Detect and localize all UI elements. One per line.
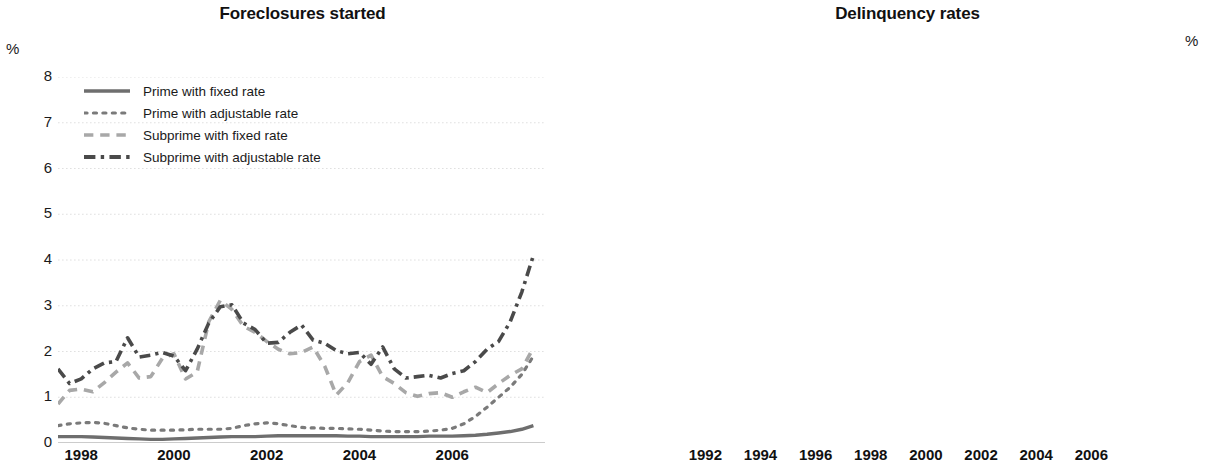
x-axis-tick-label-right: 2004 bbox=[1009, 446, 1063, 463]
legend-item[interactable]: Subprime with adjustable rate bbox=[84, 146, 321, 168]
x-axis-tick-label-left: 2000 bbox=[147, 446, 201, 463]
x-axis-tick-label-left: 2006 bbox=[425, 446, 479, 463]
x-axis-tick-label-right: 2006 bbox=[1064, 446, 1118, 463]
x-axis-tick-label-right: 1996 bbox=[789, 446, 843, 463]
x-axis-tick-label-right: 1994 bbox=[733, 446, 787, 463]
x-axis-tick-label-right: 2000 bbox=[899, 446, 953, 463]
y-axis-tick-label-left: 3 bbox=[26, 296, 52, 313]
x-axis-tick-label-left: 2004 bbox=[332, 446, 386, 463]
legend-item[interactable]: Prime with fixed rate bbox=[84, 80, 321, 102]
legend-label: Subprime with adjustable rate bbox=[143, 150, 321, 165]
x-axis-tick-label-right: 2002 bbox=[954, 446, 1008, 463]
x-axis-tick-label-left: 2002 bbox=[240, 446, 294, 463]
x-axis-tick-label-right: 1992 bbox=[678, 446, 732, 463]
y-axis-tick-label-left: 2 bbox=[26, 342, 52, 359]
legend-swatch-solid bbox=[84, 85, 130, 97]
y-axis-tick-label-left: 8 bbox=[26, 67, 52, 84]
series-line bbox=[58, 300, 533, 404]
page-title-left: Foreclosures started bbox=[0, 4, 695, 24]
figure-root: Foreclosures started % Prime with fixed … bbox=[0, 0, 1210, 466]
page-title-right: Delinquency rates bbox=[605, 4, 1210, 24]
legend-swatch-dashed bbox=[84, 129, 130, 141]
legend-item[interactable]: Prime with adjustable rate bbox=[84, 102, 321, 124]
y-axis-tick-label-left: 4 bbox=[26, 250, 52, 267]
legend-left: Prime with fixed ratePrime with adjustab… bbox=[84, 80, 321, 168]
x-axis-tick-label-left: 1998 bbox=[54, 446, 108, 463]
legend-label: Prime with adjustable rate bbox=[143, 106, 298, 121]
y-axis-tick-label-left: 7 bbox=[26, 113, 52, 130]
y-axis-tick-label-left: 6 bbox=[26, 159, 52, 176]
legend-label: Subprime with fixed rate bbox=[143, 128, 288, 143]
y-axis-unit-right: % bbox=[1185, 32, 1198, 49]
y-axis-tick-label-left: 5 bbox=[26, 204, 52, 221]
legend-swatch-dotted bbox=[84, 107, 130, 119]
y-axis-unit-left: % bbox=[6, 40, 19, 57]
y-axis-tick-label-left: 0 bbox=[26, 433, 52, 450]
chart-panel-foreclosures: Foreclosures started % Prime with fixed … bbox=[0, 0, 605, 466]
legend-label: Prime with fixed rate bbox=[143, 84, 265, 99]
legend-swatch-dashdot bbox=[84, 151, 130, 163]
legend-item[interactable]: Subprime with fixed rate bbox=[84, 124, 321, 146]
y-axis-tick-label-left: 1 bbox=[26, 387, 52, 404]
x-axis-tick-label-right: 1998 bbox=[844, 446, 898, 463]
chart-panel-delinquency: Delinquency rates All loansCommercial lo… bbox=[605, 0, 1210, 466]
